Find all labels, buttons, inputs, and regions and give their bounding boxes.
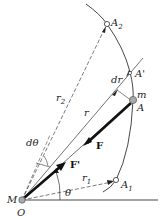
label-M: M [6, 194, 18, 205]
point-A1 [113, 177, 118, 182]
label-A-prime: A' [134, 68, 145, 79]
label-r: r [84, 107, 90, 118]
point-A2 [104, 21, 109, 26]
central-force-diagram: A2 A' dr m A r2 r F dθ F' A1 r1 θ M O [0, 0, 167, 219]
label-O: O [17, 207, 25, 218]
theta-arc [56, 171, 60, 200]
point-O-mass-M [19, 197, 25, 203]
label-A2: A2 [110, 17, 123, 31]
label-m: m [137, 89, 146, 100]
label-A1: A1 [120, 179, 133, 193]
label-theta: θ [65, 187, 71, 198]
dtheta-arc [44, 156, 48, 166]
label-F-prime: F' [70, 159, 80, 170]
r2-line [22, 28, 105, 200]
point-A-prime [128, 71, 131, 74]
label-dr: dr [111, 74, 123, 85]
r2-arrowhead-icon [102, 26, 106, 33]
label-A: A [136, 102, 144, 113]
label-F: F [96, 140, 103, 151]
force-F-vector [87, 103, 131, 143]
orbit-path [86, 4, 133, 192]
label-r2: r2 [56, 92, 66, 106]
label-r1: r1 [82, 172, 91, 186]
label-dtheta: dθ [26, 137, 38, 148]
dr-arrow-icon [112, 89, 118, 96]
point-A-mass-m [129, 96, 136, 103]
